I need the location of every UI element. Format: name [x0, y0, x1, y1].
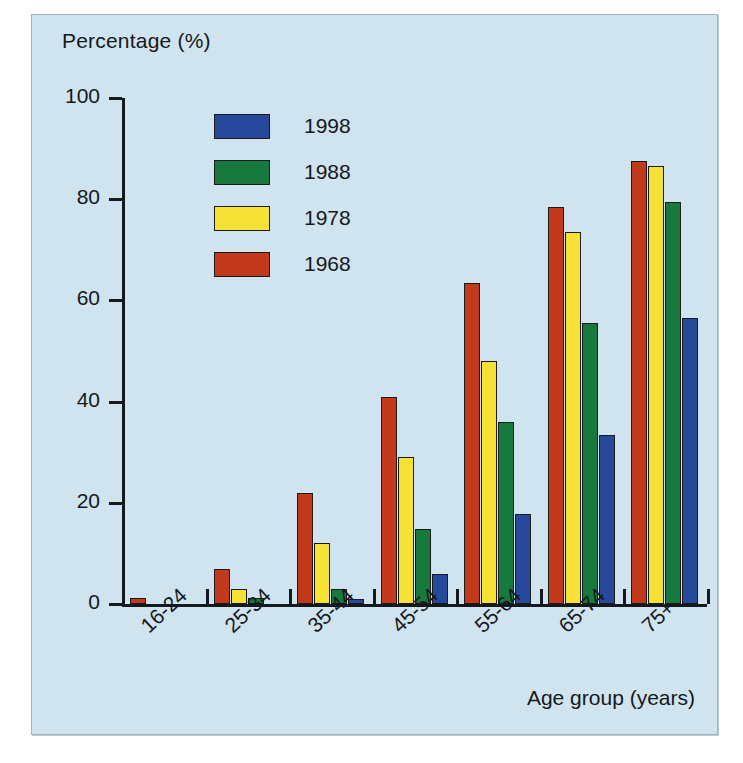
legend-item-1988: 1988 [214, 149, 351, 195]
bar-75+-1978 [648, 166, 664, 604]
legend-item-1978: 1978 [214, 195, 351, 241]
bar-group [623, 98, 707, 604]
legend-swatch-1978 [214, 206, 270, 231]
x-axis-title: Age group (years) [527, 686, 695, 710]
chart-legend: 1998198819781968 [214, 103, 351, 287]
y-axis-tick-label: 80 [77, 185, 100, 209]
y-axis-tick-label: 100 [65, 84, 100, 108]
legend-item-1968: 1968 [214, 241, 351, 287]
y-axis-tick: 0 [109, 603, 122, 606]
bar-75+-1988 [665, 202, 681, 604]
bar-16-24-1968 [130, 598, 146, 604]
bar-65-74-1988 [582, 323, 598, 604]
legend-label-1978: 1978 [304, 206, 351, 230]
chart-figure: Percentage (%) 020406080100 16-2425-3435… [31, 14, 718, 735]
y-axis-tick: 40 [109, 401, 122, 404]
y-axis-tick-label: 20 [77, 489, 100, 513]
bar-group [456, 98, 540, 604]
bar-55-64-1978 [481, 361, 497, 604]
bar-55-64-1998 [515, 514, 531, 604]
legend-swatch-1998 [214, 114, 270, 139]
bar-55-64-1988 [498, 422, 514, 604]
bar-45-54-1968 [381, 397, 397, 604]
bar-65-74-1998 [599, 435, 615, 605]
bar-25-34-1968 [214, 569, 230, 604]
y-axis-tick-label: 40 [77, 388, 100, 412]
plot-area: 020406080100 [122, 98, 707, 604]
legend-swatch-1968 [214, 252, 270, 277]
bar-group [373, 98, 457, 604]
y-axis-tick: 20 [109, 502, 122, 505]
bar-45-54-1978 [398, 457, 414, 604]
y-axis-tick: 60 [109, 299, 122, 302]
legend-label-1988: 1988 [304, 160, 351, 184]
legend-label-1968: 1968 [304, 252, 351, 276]
y-axis-tick-label: 0 [88, 590, 100, 614]
y-axis-title: Percentage (%) [62, 29, 211, 53]
y-axis-tick-label: 60 [77, 286, 100, 310]
legend-item-1998: 1998 [214, 103, 351, 149]
legend-label-1998: 1998 [304, 114, 351, 138]
bar-55-64-1968 [464, 283, 480, 604]
y-axis-tick: 100 [109, 97, 122, 100]
legend-swatch-1988 [214, 160, 270, 185]
bar-group [540, 98, 624, 604]
bar-75+-1968 [631, 161, 647, 604]
bar-group [122, 98, 206, 604]
bar-35-44-1978 [314, 543, 330, 604]
bar-65-74-1968 [548, 207, 564, 604]
y-axis-tick: 80 [109, 198, 122, 201]
bar-35-44-1968 [297, 493, 313, 604]
bar-75+-1998 [682, 318, 698, 604]
bar-65-74-1978 [565, 232, 581, 604]
x-axis-tick [707, 589, 710, 604]
